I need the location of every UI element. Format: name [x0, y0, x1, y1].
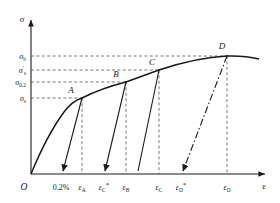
- x-tick-eps-B-sub: B: [126, 187, 130, 193]
- x-tick-eps-C-star: εC*: [99, 181, 110, 192]
- x-tick-eps-D-star: εD*: [176, 181, 187, 192]
- point-label-A: A: [67, 85, 74, 95]
- y-tick-labels: σb σ′s σ0.2 σs: [15, 52, 26, 104]
- stress-strain-figure: σ ε O σb σ′s σ0.2 σs 0.2% εA εC*: [0, 0, 280, 203]
- x-tick-eps-D: εD: [223, 183, 230, 193]
- stress-strain-chart: σ ε O σb σ′s σ0.2 σs 0.2% εA εC*: [0, 0, 280, 203]
- vertical-guides: [82, 56, 227, 174]
- x-tick-eps-C: εC: [156, 183, 163, 193]
- x-tick-eps-C-star-mark: *: [106, 181, 110, 189]
- y-tick-sigma-s-sub: s: [24, 98, 26, 104]
- x-tick-eps-A-sub: A: [82, 187, 86, 193]
- unloading-lines: [63, 56, 227, 171]
- x-tick-eps-D-sub: D: [227, 187, 231, 193]
- y-tick-sigma-02-sub: 0.2: [19, 82, 26, 88]
- point-marker-B: [125, 81, 127, 83]
- x-tick-labels: 0.2% εA εC* εB εC εD* εD: [53, 181, 231, 192]
- y-tick-sigma-02: σ0.2: [15, 78, 26, 88]
- x-tick-offset: 0.2%: [53, 183, 70, 192]
- point-marker-D: [226, 55, 228, 57]
- axis-lines: [31, 20, 265, 174]
- unloading-line-C: [138, 70, 159, 171]
- origin-label: O: [21, 182, 28, 192]
- x-tick-eps-C-sub: C: [159, 187, 163, 193]
- horizontal-guides: [31, 56, 227, 98]
- y-tick-sigma-b: σb: [19, 52, 26, 62]
- x-tick-eps-D-star-mark: *: [183, 181, 187, 189]
- point-label-B: B: [113, 69, 119, 79]
- y-tick-sigma-s-prime-sub: s: [24, 70, 26, 76]
- point-label-C: C: [149, 57, 156, 67]
- x-axis-label: ε: [262, 181, 266, 191]
- y-tick-sigma-b-sub: b: [23, 56, 26, 62]
- point-marker-C: [158, 69, 160, 71]
- y-tick-sigma-s-prime: σ′s: [19, 65, 26, 75]
- x-tick-eps-B: εB: [123, 183, 130, 193]
- x-tick-eps-A: εA: [78, 183, 85, 193]
- curve-point-labels: A B C D: [67, 41, 226, 95]
- unloading-line-D: [183, 56, 227, 171]
- unloading-line-B: [105, 82, 126, 171]
- y-tick-sigma-s: σs: [20, 94, 26, 104]
- y-axis-label: σ: [20, 14, 25, 24]
- point-label-D: D: [218, 41, 226, 51]
- point-marker-A: [81, 97, 83, 99]
- stress-strain-curve: [31, 56, 259, 174]
